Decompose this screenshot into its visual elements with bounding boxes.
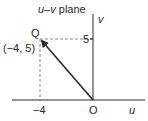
vector-OQ xyxy=(42,41,93,100)
u-axis-label: u xyxy=(129,104,135,116)
uv-plane-diagram xyxy=(0,0,148,121)
title-italic: u–v xyxy=(38,3,56,15)
title-rest: plane xyxy=(56,3,86,15)
v-tick-label: 5 xyxy=(83,33,89,45)
u-tick-label: −4 xyxy=(33,104,46,116)
diagram-title: u–v plane xyxy=(38,3,86,15)
origin-label: O xyxy=(89,104,98,116)
v-axis-label: v xyxy=(98,13,104,25)
point-label: Q xyxy=(31,27,40,39)
point-coords-label: (−4, 5) xyxy=(3,42,35,54)
